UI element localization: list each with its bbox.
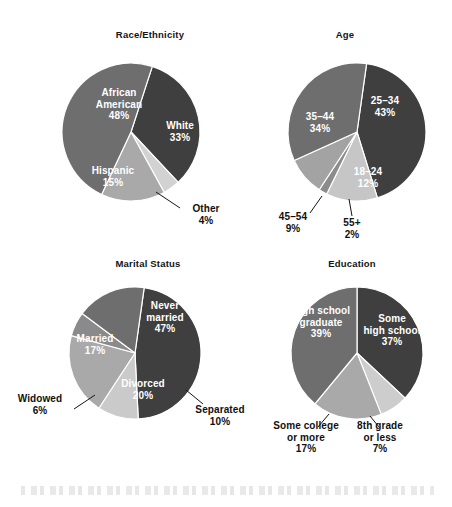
scan-artifact-smudge: [18, 486, 434, 495]
pie-slice-label-name: 8th gradeor less: [357, 420, 403, 443]
pie-chart-panel: EducationSomehigh school37%8th gradeor l…: [0, 0, 452, 507]
pie-chart-figure: Race/EthnicityWhite33%Other4%Hispanic15%…: [0, 0, 452, 507]
pie-slice-label-name: Some collegeor more: [273, 420, 339, 443]
pie-slice-label-name: High schoolgraduate: [292, 305, 350, 328]
pie-slice-label-value: 37%: [363, 336, 420, 348]
pie-slice-label: Some collegeor more17%: [273, 420, 339, 455]
pie-slice-label-value: 39%: [292, 328, 350, 340]
pie-slice-label: 8th gradeor less7%: [357, 420, 403, 455]
pie-slice-label-value: 7%: [357, 443, 403, 455]
pie-slice-label-name: Somehigh school: [363, 313, 420, 336]
pie-slice-label-value: 17%: [273, 443, 339, 455]
pie-slice-label: High schoolgraduate39%: [292, 305, 350, 340]
pie-slice-label: Somehigh school37%: [363, 313, 420, 348]
